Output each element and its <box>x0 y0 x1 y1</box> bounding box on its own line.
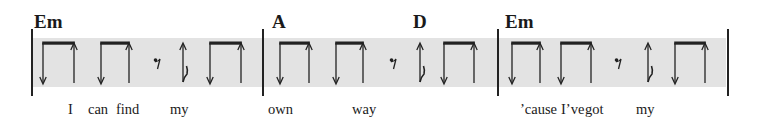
lyric-word: way <box>352 101 376 117</box>
lyric-word: I’ve <box>561 101 584 117</box>
note-flag-icon <box>183 66 187 82</box>
down-up-strum-pair <box>672 42 708 85</box>
lyric-word: my <box>170 101 189 117</box>
lyric-word: can <box>88 101 108 117</box>
lyric-word: own <box>268 101 293 117</box>
lyric-word: got <box>585 101 604 117</box>
lyric-word: ’cause <box>520 101 557 117</box>
note-flag-icon <box>648 66 652 82</box>
down-up-strum-pair <box>98 42 132 85</box>
down-up-strum-pair <box>40 42 77 85</box>
down-up-strum-pair <box>333 42 366 85</box>
down-up-strum-pair <box>509 42 543 85</box>
lyric-word: I <box>68 101 73 117</box>
down-up-strum-pair <box>441 42 477 85</box>
lyric-word: my <box>636 101 655 117</box>
note-flag-icon <box>420 66 424 82</box>
down-up-strum-pair <box>558 42 594 85</box>
down-up-strum-pair <box>207 42 244 85</box>
lyric-word: find <box>116 101 139 117</box>
down-up-strum-pair <box>277 42 312 85</box>
